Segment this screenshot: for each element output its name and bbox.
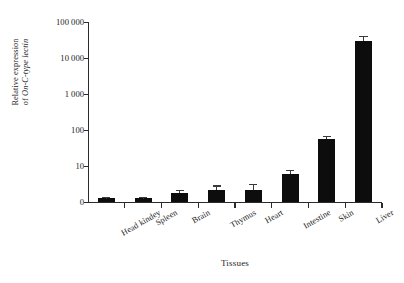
x-tick-label-brain: Brain [190,208,211,225]
x-tick-label-thymus: Thymus [228,208,257,230]
x-tick-mark [345,203,346,208]
x-tick-mark [308,203,309,208]
y-tick-label: 0 [80,197,84,207]
chart-figure: Relative expression of On-C-type lectin … [0,0,404,283]
y-tick-label: 100 000 [56,17,84,27]
x-tick-mark [234,203,235,208]
plot-area: 0101001 00010 000100 000 Head kindeySple… [88,22,382,202]
error-bar-cap [139,197,147,198]
x-tick-mark [124,203,125,208]
error-bar-cap [213,185,221,186]
bar-brain [171,193,188,202]
error-bar-cap [102,197,110,198]
y-tick-mark [84,202,89,203]
y-tick-label: 100 [71,125,84,135]
x-tick-mark [381,203,382,208]
x-tick-label-liver: Liver [374,208,395,225]
bar-liver [355,41,372,202]
bar-thymus [208,190,225,202]
bar-intestine [282,174,299,202]
y-axis-title-species: On-C-type lectin [21,39,30,96]
bar-skin [318,139,335,202]
x-tick-label-intestine: Intestine [302,208,332,231]
x-tick-mark [271,203,272,208]
y-axis-title: Relative expression of On-C-type lectin [4,7,38,137]
error-bar-cap [249,184,257,185]
y-axis-title-line1: Relative expression [11,38,21,105]
y-tick-mark [84,58,89,59]
y-tick-mark [84,166,89,167]
x-axis-title: Tissues [88,258,382,268]
y-tick-label: 1 000 [65,89,84,99]
x-tick-mark [198,203,199,208]
bar-heart [245,190,262,202]
y-tick-mark [84,130,89,131]
y-axis-title-line2-prefix: of [21,96,30,105]
error-bar-cap [359,36,368,37]
y-tick-label: 10 000 [60,53,84,63]
y-axis-line [88,22,89,202]
y-tick-mark [84,22,89,23]
y-tick-label: 10 [75,161,84,171]
x-tick-mark [161,203,162,208]
y-tick-mark [84,94,89,95]
y-axis-title-line2: of On-C-type lectin [21,38,31,105]
error-bar-cap [176,190,184,191]
bar-spleen [135,198,152,202]
x-tick-label-skin: Skin [337,208,355,224]
x-tick-label-heart: Heart [264,208,285,225]
error-bar-cap [323,136,331,137]
error-bar-cap [286,170,294,171]
